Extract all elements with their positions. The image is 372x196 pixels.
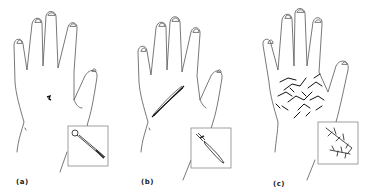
incised-wound xyxy=(152,86,184,117)
hand-drawing xyxy=(0,0,124,196)
hand-drawing xyxy=(248,0,372,196)
lacerated-wounds xyxy=(276,74,324,118)
panel-b: (b) xyxy=(124,0,248,196)
panel-label: (a) xyxy=(16,178,29,186)
inset-box xyxy=(68,126,108,166)
inset-box xyxy=(191,128,231,168)
panel-a: (a) xyxy=(0,0,124,196)
panel-label: (b) xyxy=(141,178,154,186)
hand-drawing xyxy=(124,0,248,196)
inset-box xyxy=(318,122,358,164)
panel-label: (c) xyxy=(273,180,285,188)
panel-c: (c) xyxy=(248,0,372,196)
puncture-wound xyxy=(47,96,51,100)
